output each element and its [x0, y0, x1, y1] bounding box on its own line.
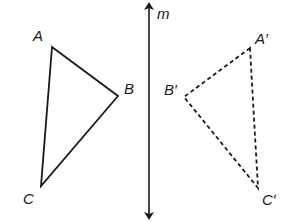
vertex-label-a: A: [32, 27, 43, 44]
triangle-a-prime-b-prime-c-prime: [184, 48, 258, 188]
vertex-label-a-prime: A′: [254, 30, 269, 47]
vertex-label-c-prime: C′: [262, 191, 277, 208]
triangle-abc: [41, 47, 118, 186]
reflection-diagram: m A B C A′ B′ C′: [0, 0, 290, 222]
vertex-label-c: C: [23, 190, 34, 207]
vertex-label-b-prime: B′: [164, 81, 178, 98]
line-label-m: m: [157, 5, 170, 22]
vertex-label-b: B: [124, 80, 134, 97]
